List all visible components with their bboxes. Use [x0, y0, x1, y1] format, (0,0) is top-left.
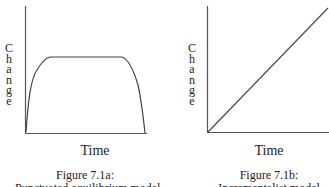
- chart-a-y-label: C h a n g e: [3, 43, 15, 106]
- chart-a-x-label: Time: [60, 143, 130, 159]
- chart-a-caption-subtitle: Punctuated equilibrium model: [15, 181, 155, 187]
- y-label-letter: e: [3, 96, 15, 107]
- chart-a-curve: [26, 57, 145, 133]
- chart-a-caption-title: Figure 7.1a:: [20, 168, 150, 182]
- y-label-letter: e: [186, 96, 198, 107]
- chart-b-caption-subtitle: Incrementalist model: [199, 181, 329, 187]
- chart-b-x-label: Time: [234, 143, 304, 159]
- chart-b-y-label: C h a n g e: [186, 43, 198, 106]
- chart-b-line: [208, 8, 328, 132]
- chart-b-caption-title: Figure 7.1b:: [204, 168, 329, 182]
